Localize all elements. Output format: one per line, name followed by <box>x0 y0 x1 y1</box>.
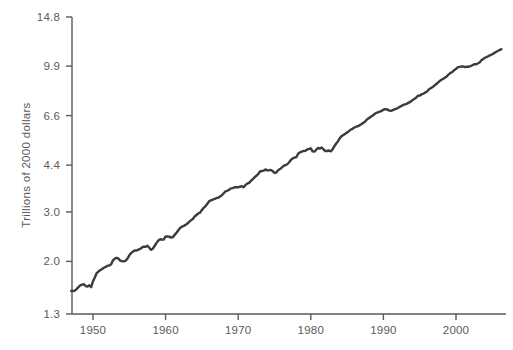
x-axis-tick-label: 2000 <box>443 324 469 336</box>
y-axis-tick-label: 14.8 <box>37 11 60 23</box>
y-axis-tick-label: 6.6 <box>43 110 60 122</box>
x-axis-tick-label: 1960 <box>152 324 178 336</box>
y-axis-tick-label: 2.0 <box>43 255 60 267</box>
y-axis-tick-label: 3.0 <box>43 206 60 218</box>
x-axis-tick-label: 1970 <box>225 324 251 336</box>
y-axis-title: Trillions of 2000 dollars <box>20 102 32 227</box>
chart-figure: 1.32.03.04.46.69.914.8 19501960197019801… <box>0 0 513 350</box>
line-chart: 1.32.03.04.46.69.914.8 19501960197019801… <box>0 0 513 350</box>
y-axis-tick-label: 9.9 <box>43 60 60 72</box>
x-axis-tick-label: 1990 <box>370 324 396 336</box>
y-axis-tick-label: 4.4 <box>43 159 60 171</box>
x-axis-tick-label: 1950 <box>80 324 106 336</box>
x-axis-tick-label: 1980 <box>298 324 324 336</box>
y-axis-tick-label: 1.3 <box>43 308 60 320</box>
